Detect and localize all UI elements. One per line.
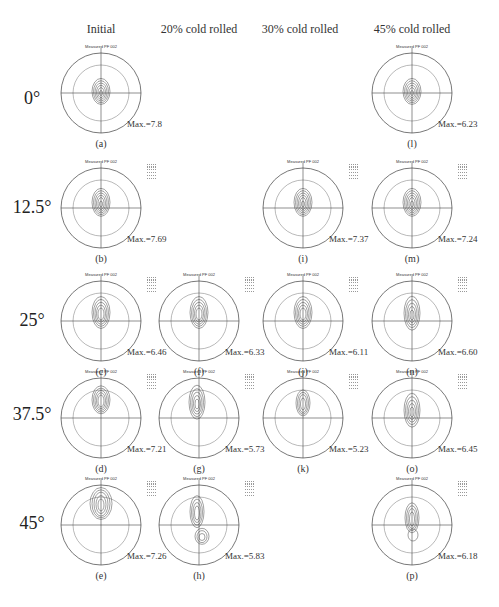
legend-entry bbox=[458, 495, 468, 496]
pole-figure-title: Measured PF 002 bbox=[357, 44, 467, 49]
subfigure-label: (i) bbox=[298, 253, 307, 264]
subfigure-label: (m) bbox=[405, 253, 419, 264]
pole-figure-title: Measured PF 002 bbox=[357, 476, 467, 481]
column-header-initial: Initial bbox=[87, 22, 116, 37]
pole-figure-panel-i: Measured PF 002 bbox=[248, 153, 358, 263]
legend-entry bbox=[458, 175, 468, 176]
legend-entry bbox=[147, 169, 157, 170]
pole-figure-panel-h: Measured PF 002 bbox=[144, 470, 254, 580]
pole-figure-title: Measured PF 002 bbox=[46, 476, 156, 481]
pole-figure-panel-o: Measured PF 002 bbox=[357, 363, 467, 473]
max-intensity-label: Max.=6.60 bbox=[438, 347, 478, 357]
max-intensity-label: Max.=7.8 bbox=[127, 119, 162, 129]
pole-figure-title: Measured PF 002 bbox=[248, 159, 358, 164]
legend-entry bbox=[458, 481, 468, 482]
pole-figure-panel-j: Measured PF 002 bbox=[248, 266, 358, 376]
pole-figure-plot bbox=[46, 363, 156, 473]
legend-entry bbox=[147, 164, 157, 165]
legend-entry bbox=[458, 172, 468, 173]
pole-figure-plot bbox=[248, 153, 358, 263]
legend-entry bbox=[458, 166, 468, 167]
pole-figure-title: Measured PF 002 bbox=[248, 369, 358, 374]
legend-entry bbox=[458, 489, 468, 490]
legend-entry bbox=[458, 279, 468, 280]
subfigure-label: (p) bbox=[406, 570, 418, 581]
subfigure-label: (l) bbox=[407, 138, 416, 149]
contour-line bbox=[408, 529, 418, 541]
legend-entry bbox=[245, 489, 255, 490]
pole-figure-title: Measured PF 002 bbox=[144, 476, 254, 481]
pole-figure-plot bbox=[248, 266, 358, 376]
legend-entry bbox=[458, 376, 468, 377]
legend-entry bbox=[458, 291, 468, 292]
legend-entry bbox=[245, 495, 255, 496]
legend-entry bbox=[458, 388, 468, 389]
legend-entry bbox=[458, 282, 468, 283]
pole-figure-plot bbox=[46, 38, 156, 148]
contour-legend bbox=[458, 372, 468, 390]
column-header-30pct: 30% cold rolled bbox=[262, 22, 339, 37]
legend-entry bbox=[147, 172, 157, 173]
max-intensity-label: Max.=7.69 bbox=[127, 234, 167, 244]
subfigure-label: (k) bbox=[297, 463, 309, 474]
pole-figure-panel-e: Measured PF 002 bbox=[46, 470, 156, 580]
contour-legend bbox=[458, 479, 468, 497]
pole-figure-title: Measured PF 002 bbox=[248, 272, 358, 277]
contour-legend bbox=[147, 162, 157, 180]
pole-figure-panel-a: Measured PF 002 bbox=[46, 38, 156, 148]
legend-entry bbox=[458, 492, 468, 493]
pole-figure-title: Measured PF 002 bbox=[357, 272, 467, 277]
row-label-45deg: 45° bbox=[19, 513, 44, 534]
legend-entry bbox=[147, 178, 157, 179]
pole-figure-panel-g: Measured PF 002 bbox=[144, 363, 254, 473]
pole-figure-panel-f: Measured PF 002 bbox=[144, 266, 254, 376]
pole-figure-plot bbox=[46, 470, 156, 580]
subfigure-label: (a) bbox=[95, 138, 106, 149]
legend-entry bbox=[147, 166, 157, 167]
max-intensity-label: Max.=5.83 bbox=[225, 551, 265, 561]
pole-figure-plot bbox=[46, 153, 156, 263]
legend-entry bbox=[245, 492, 255, 493]
max-intensity-label: Max.=7.24 bbox=[438, 234, 478, 244]
contour-line bbox=[191, 389, 204, 417]
contour-legend bbox=[458, 162, 468, 180]
contour-line bbox=[195, 399, 199, 409]
max-intensity-label: Max.=6.18 bbox=[438, 551, 478, 561]
pole-figure-panel-p: Measured PF 002 bbox=[357, 470, 467, 580]
pole-figure-title: Measured PF 002 bbox=[144, 369, 254, 374]
contour-line bbox=[190, 496, 204, 528]
contour-legend bbox=[245, 479, 255, 497]
row-label-0deg: 0° bbox=[24, 88, 40, 109]
contour-legend bbox=[458, 275, 468, 293]
legend-entry bbox=[458, 164, 468, 165]
pole-figure-plot bbox=[357, 470, 467, 580]
contour-line bbox=[199, 534, 205, 541]
pole-figure-plot bbox=[46, 266, 156, 376]
max-intensity-label: Max.=6.23 bbox=[438, 119, 478, 129]
pole-figure-panel-c: Measured PF 002 bbox=[46, 266, 156, 376]
pole-figure-title: Measured PF 002 bbox=[144, 272, 254, 277]
legend-entry bbox=[458, 483, 468, 484]
legend-entry bbox=[458, 288, 468, 289]
column-header-45pct: 45% cold rolled bbox=[374, 22, 451, 37]
pole-figure-panel-b: Measured PF 002 bbox=[46, 153, 156, 263]
subfigure-label: (h) bbox=[193, 570, 205, 581]
legend-entry bbox=[458, 379, 468, 380]
legend-entry bbox=[458, 178, 468, 179]
legend-entry bbox=[458, 374, 468, 375]
subfigure-label: (e) bbox=[95, 570, 106, 581]
pole-figure-plot bbox=[144, 363, 254, 473]
pole-figure-title: Measured PF 002 bbox=[46, 159, 156, 164]
pole-figure-panel-l: Measured PF 002 bbox=[357, 38, 467, 148]
pole-figure-plot bbox=[144, 266, 254, 376]
pole-figure-panel-n: Measured PF 002 bbox=[357, 266, 467, 376]
legend-entry bbox=[147, 175, 157, 176]
pole-figure-title: Measured PF 002 bbox=[46, 369, 156, 374]
pole-figure-title: Measured PF 002 bbox=[46, 272, 156, 277]
contour-line bbox=[197, 531, 207, 543]
pole-figure-plot bbox=[357, 363, 467, 473]
max-intensity-label: Max.=6.45 bbox=[438, 444, 478, 454]
legend-entry bbox=[458, 382, 468, 383]
column-header-20pct: 20% cold rolled bbox=[161, 22, 238, 37]
pole-figure-plot bbox=[357, 153, 467, 263]
